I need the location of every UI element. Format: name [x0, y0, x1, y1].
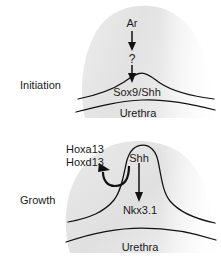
stage-label-initiation: Initiation	[20, 79, 61, 91]
panel-growth: Hoxa13 Hoxd13 Shh Nkx3.1 Urethra Growth	[20, 141, 216, 253]
label-ar: Ar	[127, 17, 138, 29]
label-shh: Shh	[129, 152, 149, 164]
panel-initiation: Ar ? Sox9/Shh Urethra Initiation	[20, 6, 215, 119]
label-nkx31: Nkx3.1	[123, 204, 157, 216]
mesenchyme-blob-initiation	[82, 6, 213, 118]
diagram-canvas: Ar ? Sox9/Shh Urethra Initiation	[0, 0, 221, 264]
stage-label-growth: Growth	[20, 194, 55, 206]
label-sox9-shh: Sox9/Shh	[113, 86, 161, 98]
label-urethra-growth: Urethra	[122, 241, 160, 253]
label-hoxa13: Hoxa13	[66, 143, 104, 155]
label-urethra-initiation: Urethra	[120, 107, 158, 119]
label-hoxd13: Hoxd13	[66, 156, 104, 168]
signalling-diagram-figure: Ar ? Sox9/Shh Urethra Initiation	[0, 0, 221, 264]
label-unknown-mediator: ?	[129, 52, 136, 66]
